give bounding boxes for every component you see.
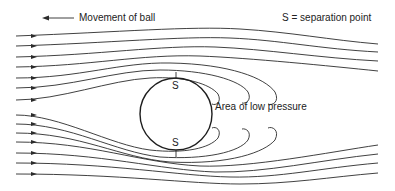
streamline-drawing <box>0 0 395 191</box>
lower-streamlines <box>16 115 378 184</box>
flow-arrowheads <box>31 34 37 176</box>
separation-point-key: S = separation point <box>282 12 371 24</box>
low-pressure-area-label: Area of low pressure <box>215 101 307 113</box>
arrow-left-icon <box>42 16 74 21</box>
top-separation-label: S <box>172 80 179 92</box>
upper-streamlines <box>16 28 378 104</box>
airflow-diagram: Movement of ball S = separation point S … <box>0 0 395 191</box>
movement-of-ball-label: Movement of ball <box>79 12 155 24</box>
bottom-separation-label: S <box>172 137 179 149</box>
